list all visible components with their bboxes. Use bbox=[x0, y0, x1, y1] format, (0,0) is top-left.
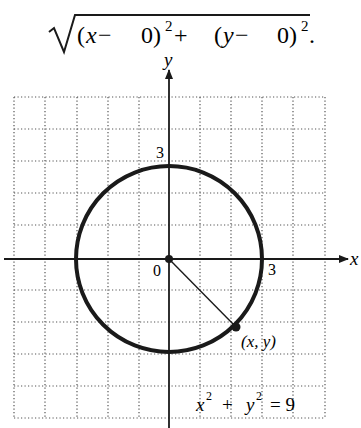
equation-label: x 2 + y 2 = 9 bbox=[195, 389, 295, 415]
origin-point bbox=[165, 255, 173, 263]
x-tick-3-label: 3 bbox=[268, 261, 276, 278]
svg-text:2: 2 bbox=[256, 389, 262, 403]
svg-text:x: x bbox=[195, 394, 205, 415]
point-label: (x, y) bbox=[241, 332, 276, 351]
circle-graph: y x 0 3 3 (x, y) x 2 + y 2 = 9 bbox=[0, 0, 361, 428]
svg-text:2: 2 bbox=[206, 389, 212, 403]
svg-text:= 9: = 9 bbox=[270, 394, 295, 415]
y-axis-label: y bbox=[162, 49, 173, 70]
svg-text:y: y bbox=[244, 394, 255, 415]
svg-text:+: + bbox=[222, 394, 233, 415]
y-tick-3-label: 3 bbox=[156, 144, 164, 161]
radius-segment bbox=[169, 259, 236, 327]
x-axis-label: x bbox=[349, 248, 359, 269]
circle-point bbox=[232, 323, 241, 332]
origin-label: 0 bbox=[153, 262, 161, 279]
